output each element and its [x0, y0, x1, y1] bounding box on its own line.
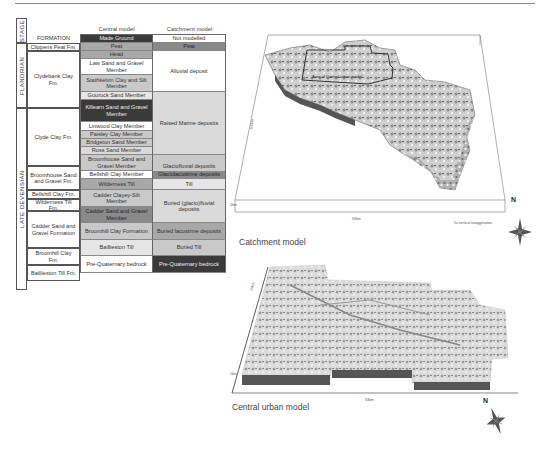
exaggeration-label: 5x vertical exaggeration	[454, 221, 492, 225]
central-unit: Baillieston Till	[80, 240, 153, 256]
terrain-side	[242, 375, 330, 385]
height-label: 1km	[230, 203, 237, 207]
formation-cell: Clydebank Clay Fm.	[27, 51, 80, 108]
stage-flandrian: FLANDRIAN	[16, 43, 27, 108]
catchment-unit: Glaciolacustrine deposits	[153, 171, 226, 179]
catchment-unit: Raised Marine deposits	[153, 92, 226, 155]
depth-label: 20km	[249, 282, 256, 292]
formation-cell: Baillieston Till Fm.	[27, 265, 80, 281]
stage-header: STAGE	[16, 18, 27, 43]
urban-terrain	[242, 265, 508, 383]
catchment-unit: Buried Till	[153, 240, 226, 256]
catchment-unit: Peat	[153, 43, 226, 51]
header-central-model: Central model	[80, 25, 153, 34]
formation-cell: Clyde Clay Fm.	[27, 108, 80, 166]
width-label: 33km	[365, 398, 374, 402]
catchment-unit: Pre-Quaternary bedrock	[153, 256, 226, 273]
catchment-unit: Buried lacustrine deposits	[153, 223, 226, 240]
central-unit: Made Ground	[80, 34, 153, 43]
formation-cell: Clippens Peat Fm.	[27, 43, 80, 51]
north-label: N	[511, 196, 516, 203]
formation-cell: Cadder Sand and Gravel Formation	[27, 211, 80, 248]
central-unit: Head	[80, 51, 153, 59]
central-unit: Gourock Sand Member	[80, 92, 153, 100]
urban-model-caption: Central urban model	[232, 402, 309, 412]
stage-label: FLANDRIAN	[18, 56, 24, 95]
compass-rose-icon	[508, 218, 532, 246]
stage-late-devensian: LATE DEVENSIAN	[16, 108, 27, 290]
central-unit: Broomhouse Sand and Gravel Member	[80, 155, 153, 171]
north-label: N	[483, 397, 488, 404]
central-unit: Pre-Quaternary bedrock	[80, 256, 153, 273]
catchment-unit: Not modelled	[153, 34, 226, 43]
width-label: 90km	[352, 217, 361, 221]
height-label: 1km	[230, 372, 237, 376]
formation-header: FORMATION	[27, 34, 80, 43]
central-unit: Law Sand and Gravel Member	[80, 59, 153, 75]
stage-label: LATE DEVENSIAN	[18, 170, 24, 228]
stage-header-label: STAGE	[18, 19, 24, 41]
urban-model-figure: 20km 1km 33km N	[230, 255, 544, 455]
formation-cell: Wilderness Till Fm.	[27, 199, 80, 211]
header-catchment-model: Catchment model	[153, 25, 226, 34]
inset-label: Area of Central urban model	[312, 74, 362, 79]
central-unit: Cadder Sand and Gravel Member	[80, 207, 153, 223]
central-unit: Bellshill Clay Member	[80, 171, 153, 179]
central-unit: Paisley Clay Member	[80, 131, 153, 139]
central-unit: Broomhill Clay Formation	[80, 223, 153, 240]
central-unit: Linwood Clay Member	[80, 122, 153, 131]
central-unit: Peat	[80, 43, 153, 51]
central-unit: Ross Sand Member	[80, 147, 153, 155]
catchment-unit: Buried (glacio)fluvial deposits	[153, 190, 226, 223]
catchment-unit: Alluvial deposit	[153, 51, 226, 92]
central-unit: Stathkelvin Clay and Silt Member	[80, 75, 153, 92]
terrain-side	[332, 370, 412, 378]
catchment-terrain	[265, 40, 475, 190]
formation-cell: Bellshill Clay Fm.	[27, 190, 80, 199]
top-rule	[15, 3, 535, 4]
catchment-model-caption: Catchment model	[239, 237, 306, 247]
depth-label: 110km	[249, 119, 255, 130]
central-unit: Wilderness Till	[80, 179, 153, 190]
formation-cell: Broomhill Clay Fm.	[27, 248, 80, 265]
compass-rose-icon	[482, 404, 510, 437]
central-unit: Cadder Clayey-Silt Member	[80, 190, 153, 207]
catchment-model-figure: Area of Central urban model 110km 1km 90…	[230, 20, 544, 260]
terrain-side	[414, 382, 490, 390]
catchment-unit: Till	[153, 179, 226, 190]
central-unit: Killearn Sand and Gravel Member	[80, 100, 153, 122]
central-unit: Bridgeton Sand Member	[80, 139, 153, 147]
formation-cell: Broomhouse Sand and Gravel Fm.	[27, 166, 80, 190]
